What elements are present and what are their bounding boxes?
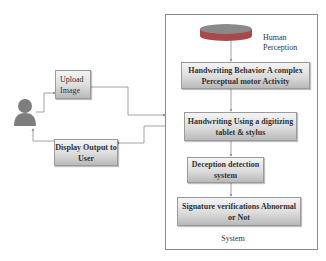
upload-image-box: Upload Image — [55, 70, 91, 99]
person-icon — [14, 99, 36, 126]
step-digitizing-tablet: Handwriting Using a digitizing tablet & … — [184, 112, 297, 141]
step-deception-detection: Deception detection system — [187, 157, 264, 183]
human-perception-label: Human Perception — [263, 33, 313, 53]
display-output-box: Display Output to User — [54, 139, 118, 166]
step-handwriting-behavior: Handwriting Behavior A complex Perceptua… — [181, 62, 310, 89]
step-signature-verification: Signature verifications Abnormal or Not — [177, 197, 301, 226]
database-cylinder-icon — [200, 24, 252, 41]
system-label: System — [216, 234, 250, 244]
